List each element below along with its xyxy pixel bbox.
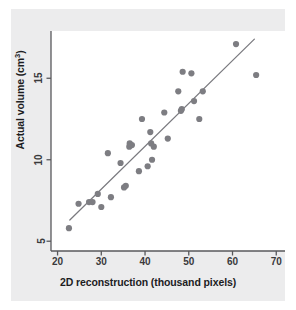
scatter-point	[175, 88, 181, 94]
scatter-point	[139, 116, 145, 122]
data-points	[66, 41, 259, 231]
scatter-point	[196, 116, 202, 122]
x-tick-label: 70	[271, 256, 282, 267]
y-axis-label-superscript: 3	[13, 54, 22, 58]
scatter-point	[89, 199, 95, 205]
y-axis-label-prefix: Actual volume (cm	[14, 58, 26, 150]
scatter-plot-figure: 203040506070 51015 2D reconstruction (th…	[0, 0, 296, 310]
scatter-point	[149, 157, 155, 163]
scatter-point	[145, 163, 151, 169]
x-tick-label: 20	[52, 256, 63, 267]
x-tick-label: 40	[139, 256, 150, 267]
y-tick-label: 10	[33, 154, 44, 165]
scatter-point	[233, 41, 239, 47]
scatter-point	[147, 129, 153, 135]
x-tick-label: 50	[183, 256, 194, 267]
scatter-point	[95, 191, 101, 197]
scatter-point	[66, 225, 72, 231]
y-axis-label-suffix: )	[14, 50, 26, 53]
scatter-point	[161, 109, 167, 115]
y-tick-label: 5	[36, 238, 47, 244]
scatter-point	[129, 142, 135, 148]
x-axis-label: 2D reconstruction (thousand pixels)	[0, 276, 296, 288]
tick-marks	[47, 78, 277, 255]
scatter-point	[105, 150, 111, 156]
scatter-point	[180, 69, 186, 75]
scatter-point	[165, 135, 171, 141]
scatter-point	[136, 168, 142, 174]
scatter-point	[117, 160, 123, 166]
scatter-point	[108, 194, 114, 200]
scatter-point	[123, 183, 129, 189]
scatter-point	[151, 144, 157, 150]
x-tick-label: 60	[227, 256, 238, 267]
scatter-point	[98, 204, 104, 210]
scatter-point	[75, 201, 81, 207]
scatter-point	[253, 72, 259, 78]
x-tick-label: 30	[96, 256, 107, 267]
y-axis-label: Actual volume (cm3)	[14, 0, 26, 200]
y-tick-label: 15	[33, 73, 44, 84]
scatter-point	[200, 88, 206, 94]
scatter-point	[191, 98, 197, 104]
scatter-point	[179, 106, 185, 112]
scatter-point	[188, 70, 194, 76]
